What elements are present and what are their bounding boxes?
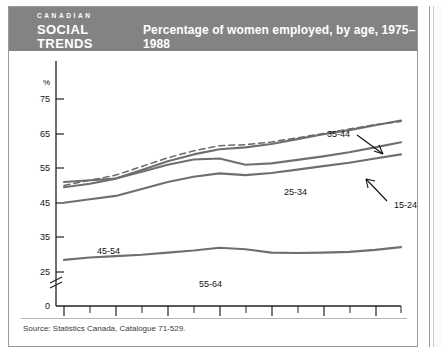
logo-line-trends: TRENDS bbox=[37, 37, 93, 50]
y-tick-label-45: 45 bbox=[40, 198, 50, 208]
logo-line-social: SOCIAL bbox=[37, 23, 93, 36]
series-label-15-24: 15-24 bbox=[394, 200, 417, 210]
article-panel: CANADIAN SOCIAL TRENDS Percentage of wom… bbox=[8, 6, 418, 347]
series-line-25-34 bbox=[64, 122, 401, 186]
arrow-to-15-24 bbox=[366, 179, 387, 201]
series-label-55-64: 55-64 bbox=[199, 279, 222, 289]
series-label-35-44: 35-44 bbox=[327, 129, 350, 139]
y-tick-label-55: 55 bbox=[40, 163, 50, 173]
source-note: Source: Statistics Canada, Catalogue 71-… bbox=[23, 324, 185, 333]
chart-title: Percentage of women employed, by age, 19… bbox=[143, 23, 417, 51]
y-axis-unit-label: % bbox=[43, 78, 50, 87]
y-tick-label-0: 0 bbox=[45, 301, 50, 311]
adjacent-page-edge bbox=[429, 6, 440, 347]
logo-line-canadian: CANADIAN bbox=[37, 13, 93, 20]
series-label-25-34: 25-34 bbox=[284, 187, 307, 197]
adjacent-page-inner bbox=[433, 6, 442, 347]
series-line-35-44 bbox=[64, 121, 401, 188]
line-chart-svg: % 75 65 55 45 35 25 0 bbox=[9, 51, 417, 316]
y-tick-label-35: 35 bbox=[40, 232, 50, 242]
chart-header-band: CANADIAN SOCIAL TRENDS Percentage of wom… bbox=[9, 7, 417, 51]
y-tick-label-65: 65 bbox=[40, 129, 50, 139]
y-tick-label-25: 25 bbox=[40, 267, 50, 277]
x-tick-group bbox=[64, 306, 401, 316]
plot-area: % 75 65 55 45 35 25 0 bbox=[9, 51, 417, 316]
y-tick-label-75: 75 bbox=[40, 94, 50, 104]
source-divider bbox=[21, 318, 407, 319]
y-tick-group bbox=[56, 99, 64, 272]
series-label-45-54: 45-54 bbox=[97, 246, 120, 256]
canadian-social-trends-logo: CANADIAN SOCIAL TRENDS bbox=[37, 13, 93, 50]
